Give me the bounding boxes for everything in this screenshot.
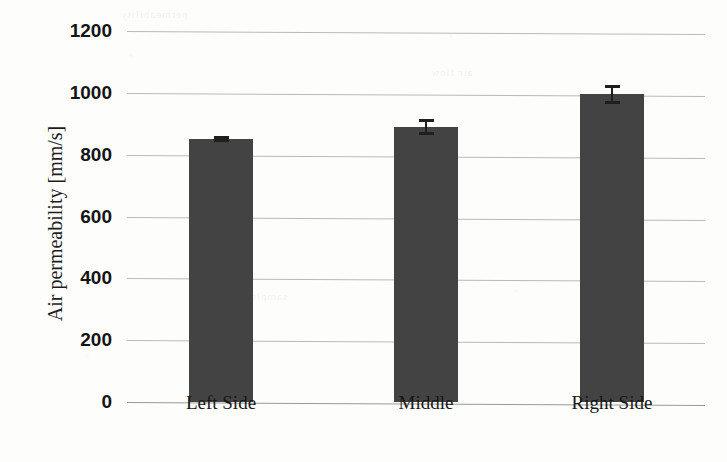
y-axis-tick-label: 200 <box>0 329 112 351</box>
x-axis-category-label: Left Side <box>186 392 256 414</box>
plot-area <box>127 31 705 402</box>
error-bar-cap-top <box>605 85 620 88</box>
y-axis-tick-label: 800 <box>0 144 112 166</box>
x-axis-category-label: Right Side <box>572 392 653 414</box>
y-axis-tick-label: 0 <box>0 391 112 413</box>
x-axis-category-label: Middle <box>399 392 454 414</box>
bar <box>189 139 253 402</box>
y-axis-tick-label: 400 <box>0 267 112 289</box>
air-permeability-bar-chart: permeability air flow sample Air permeab… <box>0 0 727 462</box>
error-bar-cap-bottom <box>605 101 620 104</box>
y-axis-tick-label: 1000 <box>0 82 112 104</box>
error-bar-cap-bottom <box>214 139 229 142</box>
bar <box>580 94 644 402</box>
y-axis-tick-label: 600 <box>0 206 112 228</box>
bar <box>394 127 458 402</box>
error-bar-cap-bottom <box>419 132 434 135</box>
gridline <box>127 31 705 35</box>
y-axis-tick-label: 1200 <box>0 20 112 42</box>
error-bar-cap-top <box>419 119 434 122</box>
scan-bleed-through-text: permeability <box>120 8 188 20</box>
